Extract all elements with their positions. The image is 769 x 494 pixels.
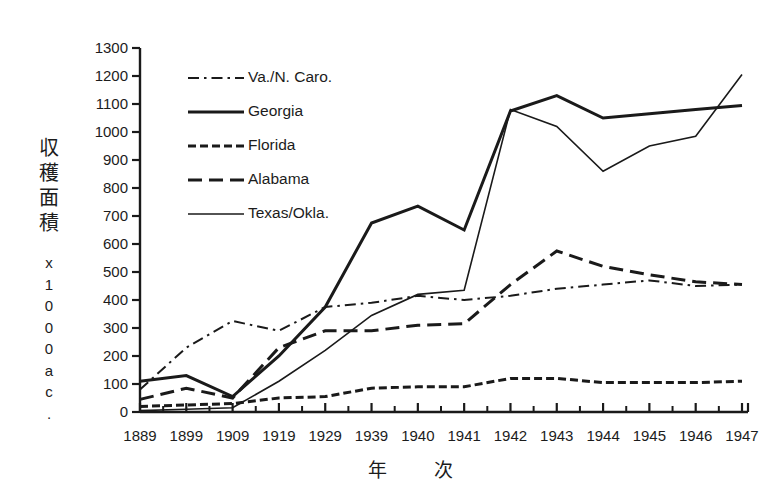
legend-label-4: Texas/Okla. [248,204,329,222]
x-axis-tick-label: 1947 [720,427,764,444]
series-line-0 [140,280,742,389]
y-axis-unit-char: c [32,381,66,403]
y-axis-tick-label: 0 [66,403,128,420]
x-axis-title: 年 次 [330,455,490,482]
x-axis-tick-label: 1945 [627,427,671,444]
y-axis-unit-char: . [32,403,66,425]
y-axis-title: 収 穫 面 積 [32,136,66,236]
y-axis-unit-label: x 1 0 0 0 a c . [32,252,66,424]
y-axis-unit-char: a [32,360,66,382]
legend-label-1: Georgia [248,102,303,120]
series-line-1 [140,96,742,397]
x-axis-tick-label: 1943 [535,427,579,444]
x-axis-tick-label: 1946 [674,427,718,444]
y-axis-tick-label: 100 [66,375,128,392]
y-axis-title-char: 収 [39,137,59,159]
y-axis-tick-label: 1100 [66,95,128,112]
y-axis-tick-label: 900 [66,151,128,168]
series-line-3 [140,251,742,399]
y-axis-tick-label: 400 [66,291,128,308]
x-axis-tick-label: 1940 [396,427,440,444]
y-axis-tick-label: 300 [66,319,128,336]
chart-figure: 収 穫 面 積 x 1 0 0 0 a c . 年 次 010020030040… [0,0,769,494]
series-line-2 [140,378,742,406]
series-line-4 [140,75,742,411]
y-axis-title-char: 面 [39,187,59,209]
x-axis-tick-label: 1939 [350,427,394,444]
x-axis-tick-label: 1942 [488,427,532,444]
legend-label-2: Florida [248,136,295,154]
y-axis-tick-label: 1200 [66,67,128,84]
y-axis-unit-char: 1 [32,274,66,296]
y-axis-unit-char: 0 [32,338,66,360]
legend-label-0: Va./N. Caro. [248,68,332,86]
y-axis-title-char: 積 [39,212,59,234]
x-axis-tick-label: 1889 [118,427,162,444]
y-axis-tick-label: 800 [66,179,128,196]
y-axis-tick-label: 1000 [66,123,128,140]
y-axis-tick-label: 600 [66,235,128,252]
y-axis-tick-label: 700 [66,207,128,224]
y-axis-unit-char: x [32,252,66,274]
x-axis-tick-label: 1909 [211,427,255,444]
x-axis-tick-label: 1929 [303,427,347,444]
y-axis-unit-char: 0 [32,295,66,317]
legend-label-3: Alabama [248,170,309,188]
y-axis-tick-label: 200 [66,347,128,364]
y-axis-tick-label: 500 [66,263,128,280]
x-axis-tick-label: 1919 [257,427,301,444]
y-axis-title-char: 穫 [39,162,59,184]
y-axis-unit-char: 0 [32,317,66,339]
x-axis-tick-label: 1944 [581,427,625,444]
x-axis-tick-label: 1941 [442,427,486,444]
x-axis-tick-label: 1899 [164,427,208,444]
y-axis-tick-label: 1300 [66,39,128,56]
